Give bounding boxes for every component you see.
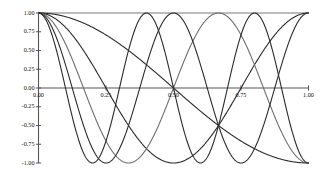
x-tick-label: 0.75 bbox=[229, 92, 253, 98]
y-tick-label: 0.25 bbox=[24, 66, 35, 72]
y-tick-label: -0.50 bbox=[22, 122, 35, 128]
y-tick-label: 0.75 bbox=[24, 28, 35, 34]
x-tick-label: 0.50 bbox=[162, 92, 186, 98]
y-tick-label: -1.00 bbox=[22, 160, 35, 166]
chart-plot-area bbox=[0, 0, 319, 170]
x-tick-label: 0.00 bbox=[27, 92, 51, 98]
y-tick-label: 1.00 bbox=[24, 10, 35, 16]
x-tick-label: 1.00 bbox=[297, 92, 320, 98]
y-tick-label: -0.25 bbox=[22, 103, 35, 109]
chart-figure: 1.000.750.500.250.00-0.25-0.50-0.75-1.00… bbox=[0, 0, 319, 170]
y-tick-label: 0.00 bbox=[24, 85, 35, 91]
y-tick-label: 0.50 bbox=[24, 47, 35, 53]
x-tick-label: 0.25 bbox=[94, 92, 118, 98]
y-tick-label: -0.75 bbox=[22, 141, 35, 147]
